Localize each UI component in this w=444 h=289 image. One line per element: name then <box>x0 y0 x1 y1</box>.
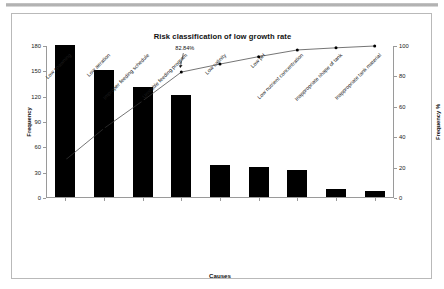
y-axis-right-tick-label: 80 <box>399 73 405 79</box>
y-axis-right-tick <box>394 46 397 47</box>
y-axis-right-tick <box>394 107 397 108</box>
chart-title: Risk classification of low growth rate <box>12 32 433 41</box>
chart-figure: Risk classification of low growth rate F… <box>11 13 432 279</box>
y-axis-right-tick-label: 20 <box>399 165 405 171</box>
y-axis-left-tick <box>43 198 46 199</box>
x-axis-tick <box>336 198 337 201</box>
y-axis-right-tick-label: 40 <box>399 134 405 140</box>
y-axis-right-tick-label: 100 <box>399 43 409 49</box>
x-axis-tick <box>297 198 298 201</box>
annotation-leader <box>46 46 394 198</box>
x-axis-tick <box>220 198 221 201</box>
x-axis-tick <box>143 198 144 201</box>
y-axis-left-title: Frequency <box>26 107 32 136</box>
x-axis-tick <box>375 198 376 201</box>
y-axis-left-tick-label: 150 <box>31 68 41 74</box>
x-axis-tick <box>181 198 182 201</box>
y-axis-right-tick <box>394 137 397 138</box>
scan-band <box>6 3 438 7</box>
y-axis-right-title: Frequency % <box>435 104 441 140</box>
x-axis-title: Causes <box>46 272 394 279</box>
figure-page: Risk classification of low growth rate F… <box>0 0 444 289</box>
y-axis-left-tick-label: 60 <box>35 144 41 150</box>
y-axis-left-tick-label: 120 <box>31 94 41 100</box>
y-axis-right-tick-label: 0 <box>399 195 402 201</box>
y-axis-left-tick-label: 0 <box>38 195 41 201</box>
y-axis-right-tick-label: 60 <box>399 104 405 110</box>
y-axis-right-tick <box>394 76 397 77</box>
y-axis-left-tick-label: 180 <box>31 43 41 49</box>
y-axis-right-tick <box>394 198 397 199</box>
y-axis-left-tick-label: 30 <box>35 170 41 176</box>
x-axis-tick <box>104 198 105 201</box>
y-axis-left-tick-label: 90 <box>35 119 41 125</box>
plot-area: Frequency Frequency % Causes 03060901201… <box>46 46 394 198</box>
x-axis-tick <box>65 198 66 201</box>
x-axis-tick <box>259 198 260 201</box>
y-axis-right-tick <box>394 168 397 169</box>
